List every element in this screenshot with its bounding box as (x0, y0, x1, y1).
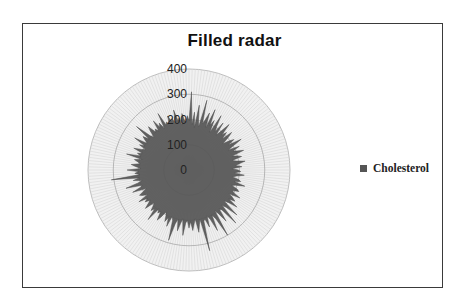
svg-text:0: 0 (180, 163, 187, 177)
svg-text:200: 200 (167, 113, 187, 127)
svg-text:400: 400 (167, 62, 187, 76)
legend-label: Cholesterol (373, 162, 429, 174)
svg-text:300: 300 (167, 87, 187, 101)
radar-plot: 0100200300400 (0, 0, 469, 303)
legend-swatch-icon (360, 165, 367, 172)
svg-text:100: 100 (167, 138, 187, 152)
legend: Cholesterol (360, 162, 429, 174)
